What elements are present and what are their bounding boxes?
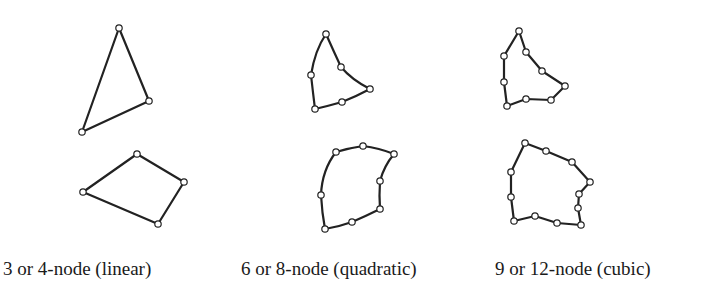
node-point <box>312 106 318 112</box>
linear-quad-element <box>83 154 184 224</box>
node-point <box>562 83 568 89</box>
cubic-triangle-element <box>504 31 565 106</box>
cubic-elements <box>501 28 593 228</box>
node-point <box>532 213 538 219</box>
node-point <box>318 192 324 198</box>
node-point <box>575 205 581 211</box>
node-point <box>134 151 140 157</box>
node-point <box>338 64 344 70</box>
linear-elements <box>79 25 187 227</box>
node-point <box>322 226 328 232</box>
node-point <box>360 143 366 149</box>
node-point <box>80 189 86 195</box>
node-point <box>349 219 355 225</box>
node-point <box>367 86 373 92</box>
cubic-label: 9 or 12-node (cubic) <box>495 258 651 280</box>
node-point <box>504 103 510 109</box>
node-point <box>511 218 517 224</box>
node-point <box>548 97 554 103</box>
node-point <box>523 49 529 55</box>
node-point <box>576 191 582 197</box>
node-point <box>569 159 575 165</box>
linear-quad-nodes <box>80 151 187 227</box>
node-point <box>539 68 545 74</box>
node-point <box>508 169 514 175</box>
node-point <box>155 221 161 227</box>
linear-label: 3 or 4-node (linear) <box>3 258 151 280</box>
node-point <box>391 151 397 157</box>
node-point <box>522 140 528 146</box>
cubic-quad-element <box>511 143 590 225</box>
quadratic-elements <box>308 31 397 232</box>
node-point <box>146 98 152 104</box>
node-point <box>323 31 329 37</box>
node-point <box>501 53 507 59</box>
node-point <box>308 72 314 78</box>
quadratic-triangle-element <box>311 34 370 109</box>
quadratic-quad-element <box>321 146 394 229</box>
node-point <box>523 96 529 102</box>
node-point <box>516 28 522 34</box>
node-point <box>377 178 383 184</box>
node-point <box>501 79 507 85</box>
quadratic-label: 6 or 8-node (quadratic) <box>241 258 417 280</box>
cubic-triangle-nodes <box>501 28 568 109</box>
node-point <box>554 220 560 226</box>
node-point <box>79 129 85 135</box>
node-point <box>181 179 187 185</box>
quadratic-triangle-nodes <box>308 31 373 112</box>
node-point <box>116 25 122 31</box>
node-point <box>508 194 514 200</box>
node-point <box>543 148 549 154</box>
node-point <box>377 206 383 212</box>
node-point <box>333 149 339 155</box>
linear-triangle-element <box>82 28 149 132</box>
node-point <box>339 99 345 105</box>
node-point <box>578 222 584 228</box>
node-point <box>587 179 593 185</box>
